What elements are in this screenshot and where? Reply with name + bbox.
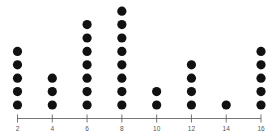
- data-dot: [82, 33, 91, 42]
- dot-series: [13, 7, 266, 110]
- dot-plot-canvas: 246810121416: [0, 0, 275, 140]
- x-tick-label: 6: [85, 125, 89, 132]
- x-tick-label: 4: [50, 125, 54, 132]
- data-dot: [82, 60, 91, 69]
- data-dot: [187, 100, 196, 109]
- data-dot: [13, 87, 22, 96]
- x-axis: 246810121416: [16, 115, 265, 133]
- data-dot: [187, 60, 196, 69]
- data-dot: [117, 60, 126, 69]
- x-tick-label: 2: [16, 125, 20, 132]
- x-tick-label: 16: [257, 125, 265, 132]
- data-dot: [256, 60, 265, 69]
- dot-plot: 246810121416: [0, 0, 275, 140]
- data-dot: [256, 100, 265, 109]
- data-dot: [82, 87, 91, 96]
- data-dot: [82, 47, 91, 56]
- data-dot: [117, 47, 126, 56]
- data-dot: [13, 47, 22, 56]
- data-dot: [117, 74, 126, 83]
- data-dot: [256, 47, 265, 56]
- x-tick-label: 10: [153, 125, 161, 132]
- data-dot: [152, 100, 161, 109]
- data-dot: [222, 100, 231, 109]
- data-dot: [48, 100, 57, 109]
- data-dot: [117, 87, 126, 96]
- data-dot: [256, 74, 265, 83]
- data-dot: [187, 87, 196, 96]
- x-tick-label: 12: [188, 125, 196, 132]
- data-dot: [13, 74, 22, 83]
- data-dot: [82, 20, 91, 29]
- data-dot: [117, 100, 126, 109]
- data-dot: [82, 100, 91, 109]
- data-dot: [13, 60, 22, 69]
- data-dot: [117, 33, 126, 42]
- data-dot: [117, 7, 126, 16]
- x-tick-label: 8: [120, 125, 124, 132]
- x-tick-label: 14: [223, 125, 231, 132]
- data-dot: [256, 87, 265, 96]
- data-dot: [82, 74, 91, 83]
- data-dot: [187, 74, 196, 83]
- data-dot: [117, 20, 126, 29]
- data-dot: [48, 74, 57, 83]
- data-dot: [48, 87, 57, 96]
- data-dot: [13, 100, 22, 109]
- data-dot: [152, 87, 161, 96]
